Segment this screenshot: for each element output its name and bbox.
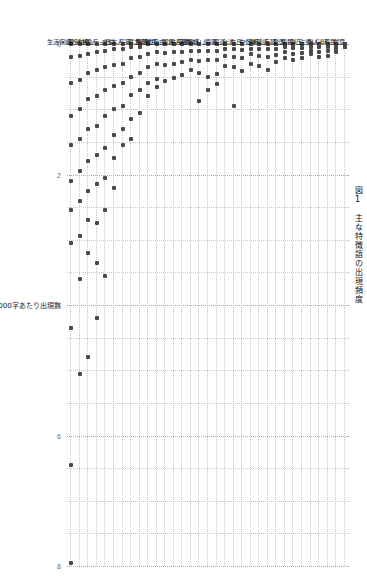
category-guide-line (241, 44, 242, 566)
data-point (112, 84, 116, 88)
data-point (163, 51, 167, 55)
data-point (78, 199, 82, 203)
data-point (317, 55, 321, 59)
category-guide-line (139, 44, 140, 566)
category-guide-line (122, 44, 123, 566)
category-guide-line (267, 44, 268, 566)
data-point (121, 127, 125, 131)
value-gridline-minor (67, 338, 349, 339)
category-guide-line (130, 44, 131, 566)
data-point (103, 208, 107, 212)
data-point (257, 64, 261, 68)
data-point (112, 186, 116, 190)
data-point (129, 117, 133, 121)
data-point (95, 182, 99, 186)
data-point (215, 72, 219, 76)
data-point (103, 65, 107, 69)
data-point (95, 153, 99, 157)
category-guide-line (292, 44, 293, 566)
category-guide-line (147, 44, 148, 566)
data-point (172, 50, 176, 54)
data-point (112, 156, 116, 160)
data-point (86, 71, 90, 75)
data-point (69, 179, 73, 183)
data-point (223, 47, 227, 51)
value-gridline-minor (67, 403, 349, 404)
category-guide-line (113, 44, 114, 566)
category-guide-line (224, 44, 225, 566)
data-point (206, 75, 210, 79)
data-point (138, 111, 142, 115)
data-point (189, 58, 193, 62)
data-point (291, 46, 295, 50)
data-point (95, 68, 99, 72)
data-point (112, 47, 116, 51)
data-point (146, 94, 150, 98)
data-point (121, 47, 125, 51)
value-gridline-major (67, 566, 349, 567)
value-gridline-minor (67, 533, 349, 534)
category-guide-line (310, 44, 311, 566)
data-point (69, 143, 73, 147)
data-point (138, 45, 142, 49)
category-guide-line (173, 44, 174, 566)
data-point (138, 55, 142, 59)
data-point (138, 88, 142, 92)
data-point (215, 58, 219, 62)
data-point (78, 137, 82, 141)
data-point (112, 133, 116, 137)
category-guide-line (216, 44, 217, 566)
value-gridline-minor (67, 207, 349, 208)
category-guide-line (79, 44, 80, 566)
data-point (69, 55, 73, 59)
data-point (146, 81, 150, 85)
data-point (274, 47, 278, 51)
data-point (232, 47, 236, 51)
category-guide-line (70, 44, 71, 566)
data-point (300, 51, 304, 55)
category-guide-line (250, 44, 251, 566)
value-gridline-major (67, 175, 349, 176)
data-point (249, 47, 253, 51)
category-guide-line (344, 44, 345, 566)
data-point (78, 54, 82, 58)
data-point (197, 99, 201, 103)
value-gridline-minor (67, 272, 349, 273)
data-point (283, 45, 287, 49)
data-point (163, 63, 167, 67)
category-guide-line (318, 44, 319, 566)
data-point (86, 52, 90, 56)
value-tick-label: 6 (57, 432, 61, 439)
data-point (206, 58, 210, 62)
data-point (300, 56, 304, 60)
data-point (155, 62, 159, 66)
category-guide-line (164, 44, 165, 566)
data-point (121, 81, 125, 85)
data-point (189, 68, 193, 72)
value-tick-label: 2 (57, 171, 61, 178)
data-point (86, 159, 90, 163)
data-point (69, 208, 73, 212)
data-point (95, 124, 99, 128)
data-point (283, 50, 287, 54)
data-point (103, 274, 107, 278)
data-point (121, 104, 125, 108)
data-point (343, 45, 347, 49)
data-point (78, 372, 82, 376)
data-point (266, 68, 270, 72)
data-point (240, 48, 244, 52)
data-point (86, 189, 90, 193)
data-point (78, 169, 82, 173)
data-point (309, 52, 313, 56)
data-point (103, 49, 107, 53)
data-point (146, 52, 150, 56)
data-point (334, 50, 338, 54)
category-guide-line (233, 44, 234, 566)
category-guide-line (190, 44, 191, 566)
data-point (103, 88, 107, 92)
data-point (240, 56, 244, 60)
data-point (180, 50, 184, 54)
data-point (232, 104, 236, 108)
data-point (283, 56, 287, 60)
data-point (163, 79, 167, 83)
